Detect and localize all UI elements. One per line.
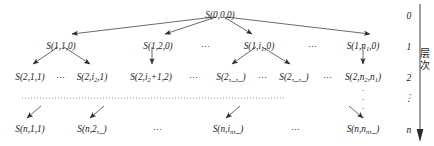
level-marker-dots: ⋮ xyxy=(404,92,414,103)
tree-node-2-a: S(2,_,_) xyxy=(216,72,245,83)
edges-to-level-n xyxy=(27,106,363,118)
tree-node-n-1: S(n,1,1) xyxy=(15,124,44,135)
tree-node-1-i: S(1,i1,0) xyxy=(244,41,275,52)
ellipsis-level2-a: ⋯ xyxy=(56,73,66,83)
tree-node-n-2: S(n,2,_) xyxy=(77,124,106,135)
tree-node-n-i: S(n,in,_) xyxy=(213,124,244,135)
level-marker-0: 0 xyxy=(407,10,412,21)
tree-node-2-n: S(2,n2,n1) xyxy=(345,72,381,83)
ellipsis-level1-b: ⋯ xyxy=(308,42,318,52)
ellipsis-level2-c: ⋯ xyxy=(258,73,268,83)
ellipsis-level2-d: ⋯ xyxy=(323,73,333,83)
tree-node-n-n: S(n,nn,_) xyxy=(347,124,380,135)
ellipsis-leveln-a: ⋯ xyxy=(153,125,163,135)
hierarchy-tree-figure: S(0,0,0) S(1,1,0) S(1,2,0) S(1,i1,0) S(1… xyxy=(0,0,434,146)
ellipsis-leveln-b: ⋯ xyxy=(291,125,301,135)
axis-caption-level: 层次 xyxy=(418,48,432,72)
tree-node-root: S(0,0,0) xyxy=(205,10,234,21)
tree-node-2-1: S(2,1,1) xyxy=(15,72,44,83)
tree-node-2-b: S(2,_,_) xyxy=(279,72,308,83)
tree-node-1-2: S(1,2,0) xyxy=(143,41,172,52)
level-marker-1: 1 xyxy=(407,41,412,52)
tree-node-1-n: S(1,n1,0) xyxy=(347,41,380,52)
level-axis xyxy=(417,4,424,142)
vertical-ellipsis-right: .... xyxy=(362,84,364,120)
tree-node-2-i2-plus-1: S(2,i2+1,2) xyxy=(130,72,172,83)
ellipsis-level2-b: ⋯ xyxy=(189,73,199,83)
level-marker-2: 2 xyxy=(407,72,412,83)
tree-node-2-i2: S(2,i2,1) xyxy=(77,72,108,83)
ellipsis-level1-a: ⋯ xyxy=(201,42,211,52)
level-marker-n: n xyxy=(407,124,412,135)
tree-node-1-1: S(1,1,0) xyxy=(46,41,75,52)
